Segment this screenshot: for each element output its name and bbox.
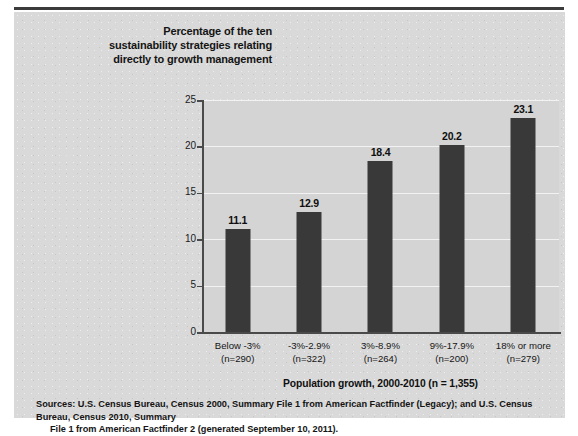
category-sample-size: (n=200) — [416, 353, 487, 366]
bar-value-label: 18.4 — [371, 146, 391, 158]
category-sample-size: (n=290) — [202, 353, 273, 366]
y-axis-tick-label: 10 — [168, 233, 196, 244]
x-axis-category-label: -3%-2.9%(n=322) — [273, 340, 344, 365]
y-axis-line — [202, 100, 204, 332]
x-axis-category-label: 9%-17.9%(n=200) — [416, 340, 487, 365]
x-axis-line — [202, 332, 561, 334]
bar-value-label: 23.1 — [513, 103, 533, 115]
x-axis-category-labels: Below -3%(n=290)-3%-2.9%(n=322)3%-8.9%(n… — [202, 340, 559, 372]
y-axis-tick-mark — [197, 100, 202, 102]
x-axis-category-label: 18% or more(n=279) — [488, 340, 559, 365]
chart-title-line-3: directly to growth management — [113, 53, 272, 65]
y-axis-tick-labels: 0510152025 — [160, 100, 196, 332]
bar-value-label: 20.2 — [442, 130, 462, 142]
bar-group[interactable]: 11.1 — [202, 100, 273, 332]
figure-panel: Percentage of the ten sustainability str… — [14, 12, 565, 418]
plot-area: 11.112.918.420.223.1 0510152025 — [202, 100, 559, 332]
y-axis-tick-mark — [197, 286, 202, 288]
y-axis-tick-label: 20 — [168, 140, 196, 151]
category-name: Below -3% — [215, 340, 261, 351]
category-name: 18% or more — [496, 340, 551, 351]
bar[interactable] — [368, 161, 393, 332]
bar[interactable] — [511, 118, 536, 332]
category-name: -3%-2.9% — [288, 340, 330, 351]
y-axis-tick-label: 15 — [168, 186, 196, 197]
bar[interactable] — [297, 212, 322, 332]
bar-group[interactable]: 23.1 — [488, 100, 559, 332]
bar-group[interactable]: 12.9 — [273, 100, 344, 332]
y-axis-tick-label: 0 — [168, 326, 196, 337]
source-note: Sources: U.S. Census Bureau, Census 2000… — [36, 398, 564, 436]
x-axis-category-label: 3%-8.9%(n=264) — [345, 340, 416, 365]
source-line-2: File 1 from American Factfinder 2 (gener… — [36, 423, 564, 436]
bar-group[interactable]: 20.2 — [416, 100, 487, 332]
category-sample-size: (n=264) — [345, 353, 416, 366]
chart-title: Percentage of the ten sustainability str… — [58, 24, 272, 67]
y-axis-tick-mark — [197, 239, 202, 241]
chart-title-line-1: Percentage of the ten — [163, 25, 272, 37]
y-axis-tick-mark — [197, 193, 202, 195]
clipped-top-text — [14, 0, 562, 4]
chart-title-line-2: sustainability strategies relating — [109, 39, 272, 51]
y-axis-tick-mark — [197, 332, 202, 334]
category-sample-size: (n=322) — [273, 353, 344, 366]
bar[interactable] — [225, 229, 250, 332]
bar[interactable] — [439, 145, 464, 332]
category-sample-size: (n=279) — [488, 353, 559, 366]
top-horizontal-rule — [14, 7, 564, 10]
source-line-1: Sources: U.S. Census Bureau, Census 2000… — [36, 399, 532, 422]
bar-value-label: 11.1 — [228, 214, 247, 226]
x-axis-category-label: Below -3%(n=290) — [202, 340, 273, 365]
y-axis-tick-label: 5 — [168, 279, 196, 290]
y-axis-tick-label: 25 — [168, 94, 196, 105]
category-name: 3%-8.9% — [361, 340, 400, 351]
bar-value-label: 12.9 — [299, 197, 319, 209]
category-name: 9%-17.9% — [430, 340, 474, 351]
x-axis-title: Population growth, 2000-2010 (n = 1,355) — [202, 378, 559, 389]
y-axis-tick-mark — [197, 146, 202, 148]
bar-group[interactable]: 18.4 — [345, 100, 416, 332]
